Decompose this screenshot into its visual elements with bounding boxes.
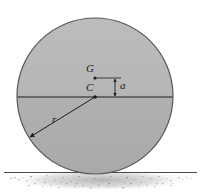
label-offset-a: a (120, 80, 126, 91)
point-C-marker (93, 95, 97, 99)
figure-container: G C a r (0, 0, 201, 194)
label-mass-center-G: G (86, 63, 94, 74)
mechanics-diagram (0, 0, 201, 194)
point-G-marker (93, 76, 96, 79)
label-geometric-center-C: C (86, 82, 93, 93)
label-radius-r: r (52, 114, 56, 125)
